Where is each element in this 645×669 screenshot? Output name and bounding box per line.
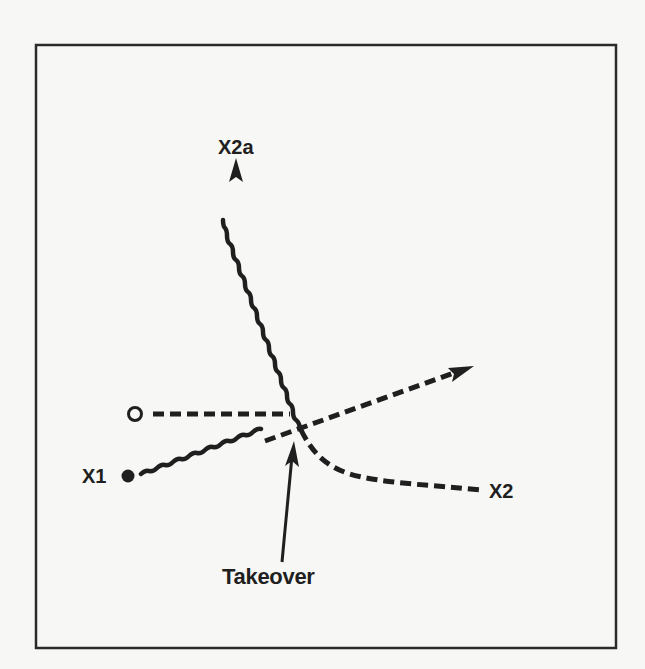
x2-label: X2 bbox=[489, 481, 513, 501]
x2a-dribble-path bbox=[223, 220, 300, 428]
x1-arrowhead-icon bbox=[448, 366, 474, 382]
x1-label: X1 bbox=[82, 466, 106, 486]
takeover-label: Takeover bbox=[222, 566, 315, 588]
offense-player-icon bbox=[129, 408, 142, 421]
diagram-frame bbox=[36, 45, 616, 648]
x1-dribble-path bbox=[141, 429, 261, 474]
takeover-pointer-line bbox=[282, 456, 292, 562]
x1-continue-path bbox=[265, 370, 462, 441]
x2-path bbox=[301, 430, 482, 490]
x1-player-icon bbox=[122, 470, 135, 483]
x2a-arrowhead-icon bbox=[229, 158, 243, 182]
x2a-label: X2a bbox=[218, 137, 254, 157]
play-diagram bbox=[0, 0, 645, 669]
